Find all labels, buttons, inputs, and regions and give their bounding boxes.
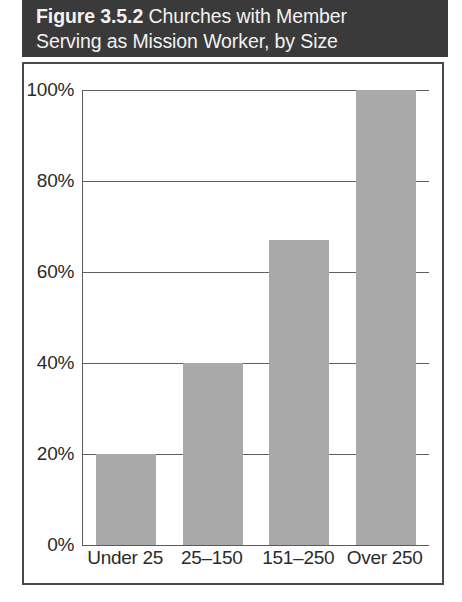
x-tick-label: 25–150 [181, 547, 243, 569]
plot-area [82, 90, 429, 546]
figure-title-line-2: Serving as Mission Worker, by Size [36, 29, 438, 54]
bar [183, 363, 243, 545]
x-axis-labels: Under 2525–150151–250Over 250 [82, 547, 428, 579]
bar [96, 454, 156, 545]
y-tick-label: 100% [27, 79, 74, 101]
chart-card: 0%20%40%60%80%100% Under 2525–150151–250… [22, 62, 444, 585]
y-tick-label: 0% [47, 534, 74, 556]
figure-title-bar: Figure 3.5.2 Churches with Member Servin… [22, 0, 448, 57]
y-tick-label: 40% [37, 352, 74, 374]
x-tick-label: 151–250 [262, 547, 334, 569]
plot-wrapper: 0%20%40%60%80%100% Under 2525–150151–250… [24, 64, 446, 587]
x-tick-label: Over 250 [347, 547, 423, 569]
figure-container: Figure 3.5.2 Churches with Member Servin… [0, 0, 462, 602]
y-tick-label: 60% [37, 261, 74, 283]
y-tick-label: 80% [37, 170, 74, 192]
y-axis-labels: 0%20%40%60%80%100% [24, 64, 78, 587]
bar [269, 240, 329, 545]
y-tick-label: 20% [37, 443, 74, 465]
figure-number: Figure 3.5.2 [36, 5, 143, 27]
bars [83, 90, 429, 545]
x-tick-label: Under 25 [87, 547, 163, 569]
figure-caption-part-1: Churches with Member [143, 5, 347, 27]
bar [356, 90, 416, 545]
figure-title-line-1: Figure 3.5.2 Churches with Member [36, 4, 438, 29]
